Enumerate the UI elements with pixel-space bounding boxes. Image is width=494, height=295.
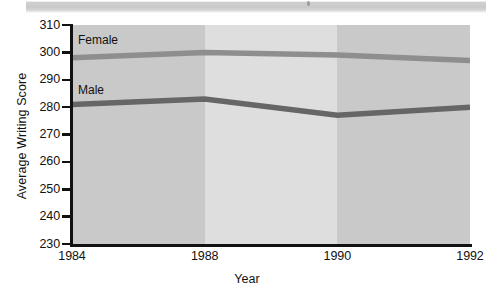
series-label-female: Female	[78, 34, 118, 46]
x-tick-label-1984: 1984	[50, 250, 94, 263]
series-line-female	[72, 52, 470, 60]
y-axis-line	[70, 24, 73, 245]
y-tick-label-310: 310	[26, 19, 60, 32]
y-axis-title: Average Writing Score	[15, 46, 29, 226]
series-label-male: Male	[78, 84, 104, 96]
y-tick-label-290: 290	[26, 73, 60, 86]
x-axis-line	[70, 244, 472, 247]
series-line-male	[72, 99, 470, 115]
x-tick-label-1988: 1988	[183, 250, 227, 263]
series-lines	[72, 25, 470, 244]
x-tick-label-1992: 1992	[448, 250, 492, 263]
y-tick-label-230: 230	[26, 238, 60, 251]
y-tick-label-240: 240	[26, 210, 60, 223]
y-tick-label-280: 280	[26, 101, 60, 114]
y-tick-label-250: 250	[26, 183, 60, 196]
y-tick-label-260: 260	[26, 155, 60, 168]
x-axis-title: Year	[0, 272, 494, 286]
line-chart: 230240250260270280290300310 198419881990…	[0, 0, 494, 295]
plot-area	[72, 25, 470, 244]
y-tick-label-300: 300	[26, 46, 60, 59]
x-tick-label-1990: 1990	[315, 250, 359, 263]
y-tick-label-270: 270	[26, 128, 60, 141]
